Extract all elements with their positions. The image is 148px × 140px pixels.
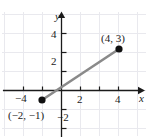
x-tick-label-neg4: −4 — [15, 93, 27, 104]
coordinate-plane-figure: y x 4 2 −2 −4 2 4 (4, 3) (−2, −1) — [0, 0, 148, 140]
point-marker-upper-right — [115, 45, 122, 52]
point-label-upper-right: (4, 3) — [101, 33, 125, 44]
y-tick-label-4: 4 — [51, 29, 57, 40]
point-marker-lower-left — [38, 96, 45, 103]
point-label-lower-left: (−2, −1) — [8, 110, 44, 121]
x-tick-label-2: 2 — [77, 94, 83, 105]
y-axis-label: y — [55, 11, 60, 22]
y-tick-label-2: 2 — [51, 56, 57, 67]
x-tick-label-4: 4 — [115, 94, 121, 105]
x-axis-label: x — [139, 93, 144, 104]
y-tick-label-neg2: −2 — [57, 112, 69, 123]
